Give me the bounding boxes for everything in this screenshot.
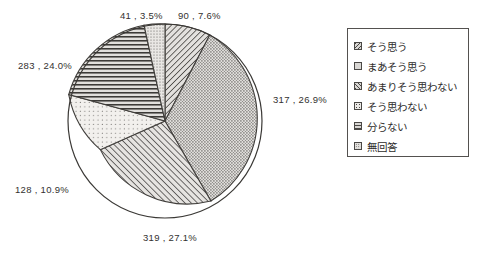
legend-item-label: そう思う [367, 39, 407, 54]
data-label-sou-omowanai: 128 , 10.9% [15, 184, 69, 195]
sparse-dots-swatch-icon [354, 102, 362, 110]
legend-item-maa-sou-omou[interactable]: まあそう思う [354, 56, 468, 76]
pie-chart-figure: 41 , 3.5% 90 , 7.6% 283 , 24.0% 317 , 26… [0, 0, 480, 258]
data-label-mukaitou: 41 , 3.5% [120, 10, 163, 21]
chart-legend: そう思う まあそう思う あまりそう思わない そう思わない 分らない 無回答 [347, 28, 469, 157]
legend-item-sou-omowanai[interactable]: そう思わない [354, 96, 468, 116]
legend-item-label: まあそう思う [367, 59, 427, 74]
legend-item-label: 無回答 [367, 139, 397, 154]
fine-dots-swatch-icon [354, 142, 362, 150]
pie-slices [69, 24, 258, 204]
data-label-sou-omou: 90 , 7.6% [178, 10, 221, 21]
legend-item-amari-sou-omowanai[interactable]: あまりそう思わない [354, 76, 468, 96]
legend-item-label: あまりそう思わない [367, 79, 457, 94]
legend-item-sou-omou[interactable]: そう思う [354, 36, 468, 56]
diagonal-backslash-swatch-icon [354, 42, 362, 50]
dense-dots-swatch-icon [354, 62, 362, 70]
data-label-amari-sou-omowanai: 319 , 27.1% [143, 232, 197, 243]
legend-item-label: そう思わない [367, 99, 427, 114]
legend-item-wakaranai[interactable]: 分らない [354, 116, 468, 136]
data-label-maa-sou-omou: 317 , 26.9% [273, 94, 327, 105]
horizontal-lines-swatch-icon [354, 122, 362, 130]
diagonal-slash-swatch-icon [354, 82, 362, 90]
legend-item-label: 分らない [367, 119, 407, 134]
data-label-wakaranai: 283 , 24.0% [18, 60, 72, 71]
legend-item-mukaitou[interactable]: 無回答 [354, 136, 468, 156]
